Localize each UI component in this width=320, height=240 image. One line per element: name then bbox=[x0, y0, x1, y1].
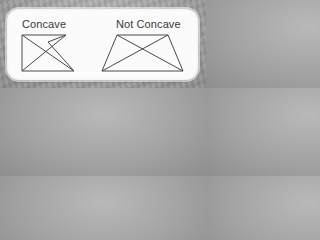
concave-shape-icon bbox=[22, 35, 74, 71]
trapezoid-shape-icon bbox=[102, 35, 183, 71]
shapes-diagram bbox=[0, 0, 206, 88]
